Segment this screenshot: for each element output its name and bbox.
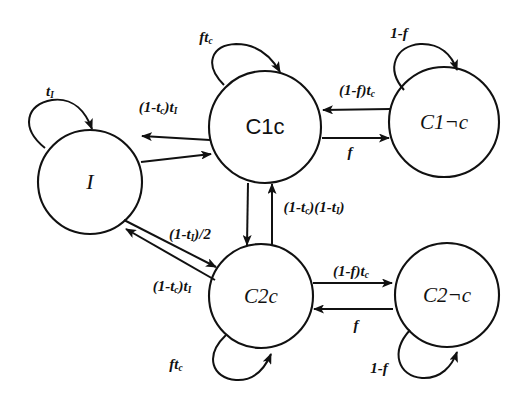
self-loop-edges xyxy=(29,44,457,380)
edge-C1c-to-I xyxy=(142,136,210,140)
diagram-vector-layer xyxy=(0,0,528,410)
edge-I-to-C1c xyxy=(141,154,211,162)
edge-label-C1nc-self: 1-f xyxy=(390,26,408,41)
edge-label-C2nc-self: 1-f xyxy=(370,361,388,376)
node-label-C2c: C2c xyxy=(244,284,278,309)
edge-C1nc-to-C1c xyxy=(323,109,390,110)
node-label-C1nc: C1¬c xyxy=(420,110,468,135)
edge-label-C2c-to-I: (1-tc)tI xyxy=(153,279,192,296)
edge-label-C1c-self: ftc xyxy=(199,30,212,47)
node-label-C1c: C1c xyxy=(245,114,284,140)
edge-label-I-self: tI xyxy=(46,84,54,101)
edge-label-C2c-to-C1c: (1-tc)(1-tI) xyxy=(283,200,344,217)
node-label-C2nc: C2¬c xyxy=(423,283,471,308)
edge-label-C1nc-to-C1c: (1-f)tc xyxy=(339,83,375,100)
edge-C2c-self xyxy=(213,335,271,380)
edge-label-C2nc-to-C2c: f xyxy=(354,318,359,333)
node-label-I: I xyxy=(86,169,93,195)
edge-label-C2c-to-C2nc: (1-f)tc xyxy=(333,264,369,281)
edge-label-I-to-C2c: (1-tI)/2 xyxy=(169,227,211,244)
state-diagram-canvas: I C1c C1¬c C2c C2¬c tI ftc 1-f ftc 1-f (… xyxy=(0,0,528,410)
edge-C1c-to-C2c xyxy=(247,183,248,245)
edge-label-C1c-to-C1nc: f xyxy=(348,145,353,160)
edge-label-C2c-self: ftc xyxy=(169,357,182,374)
edge-C1c-self xyxy=(212,44,280,85)
edge-C2nc-self xyxy=(399,330,457,378)
edge-label-C1c-to-I: (1-tc)tI xyxy=(139,100,178,117)
edge-I-self xyxy=(29,100,92,148)
